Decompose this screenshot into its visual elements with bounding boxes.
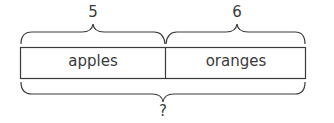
brace-apples — [21, 24, 165, 44]
brace-oranges — [166, 24, 305, 44]
label-oranges-count: 6 — [227, 5, 247, 20]
brace-total — [21, 82, 305, 102]
label-total-unknown: ? — [153, 104, 173, 119]
label-apples-count: 5 — [83, 5, 103, 20]
segment-oranges: oranges — [166, 54, 306, 69]
tape-diagram: 5 6 apples oranges ? — [0, 0, 334, 123]
segment-apples: apples — [21, 54, 165, 69]
